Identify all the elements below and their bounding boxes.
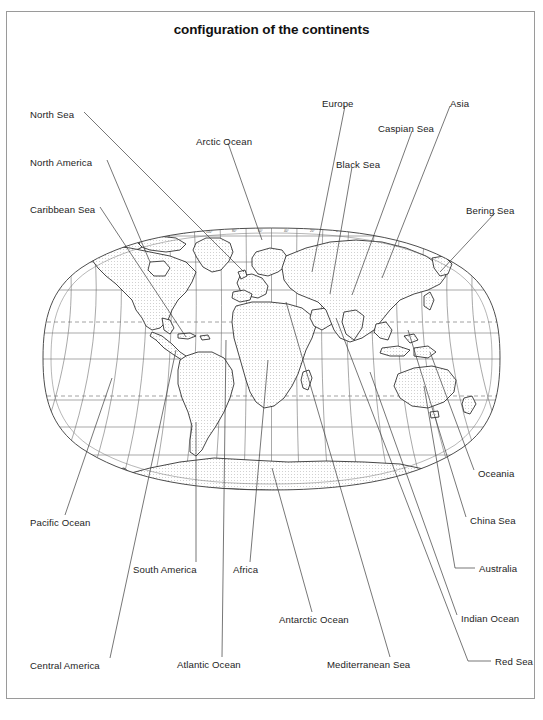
label-red-sea[interactable]: Red Sea: [495, 656, 533, 667]
svg-text:80°: 80°: [436, 488, 441, 492]
svg-text:40°: 40°: [284, 229, 289, 233]
label-mediterranean-sea[interactable]: Mediterranean Sea: [327, 659, 410, 670]
leader-arctic-ocean: [228, 143, 262, 240]
svg-text:40°: 40°: [386, 231, 391, 235]
svg-text:60°: 60°: [412, 232, 417, 236]
label-antarctic-ocean[interactable]: Antarctic Ocean: [279, 614, 349, 625]
figure-root: configuration of the continents: [0, 0, 543, 720]
svg-text:80°: 80°: [436, 234, 441, 238]
label-north-sea[interactable]: North Sea: [30, 109, 74, 120]
label-arctic-ocean[interactable]: Arctic Ocean: [196, 136, 252, 147]
svg-text:160°: 160°: [130, 489, 137, 493]
label-asia[interactable]: Asia: [450, 98, 469, 109]
label-bering-sea[interactable]: Bering Sea: [466, 205, 514, 216]
svg-text:20°: 20°: [310, 229, 315, 233]
label-indian-ocean[interactable]: Indian Ocean: [461, 613, 519, 624]
label-oceania[interactable]: Oceania: [478, 468, 514, 479]
label-europe[interactable]: Europe: [322, 98, 354, 109]
label-south-america[interactable]: South America: [133, 564, 197, 575]
map-interior: 160°140° 120°100° 80°60° 40°20° 0°20° 40…: [13, 224, 530, 498]
label-caribbean-sea[interactable]: Caribbean Sea: [30, 204, 95, 215]
label-black-sea[interactable]: Black Sea: [336, 159, 380, 170]
svg-text:20°: 20°: [362, 489, 367, 493]
svg-text:80°: 80°: [232, 229, 237, 233]
leader-bering-sea: [440, 213, 495, 272]
svg-text:160°: 160°: [128, 233, 135, 237]
caribbean-islands-2: [200, 335, 210, 340]
label-pacific-ocean[interactable]: Pacific Ocean: [30, 517, 91, 528]
label-north-america[interactable]: North America: [30, 157, 92, 168]
label-australia[interactable]: Australia: [479, 563, 517, 574]
label-central-america[interactable]: Central America: [30, 660, 100, 671]
label-africa[interactable]: Africa: [233, 564, 258, 575]
svg-text:140°: 140°: [154, 232, 161, 236]
label-china-sea[interactable]: China Sea: [470, 515, 516, 526]
svg-text:100°: 100°: [208, 489, 215, 493]
svg-text:20°: 20°: [312, 489, 317, 493]
svg-text:40°: 40°: [388, 489, 393, 493]
label-atlantic-ocean[interactable]: Atlantic Ocean: [177, 659, 241, 670]
label-caspian-sea[interactable]: Caspian Sea: [378, 123, 434, 134]
svg-text:120°: 120°: [182, 489, 189, 493]
svg-text:140°: 140°: [156, 489, 163, 493]
